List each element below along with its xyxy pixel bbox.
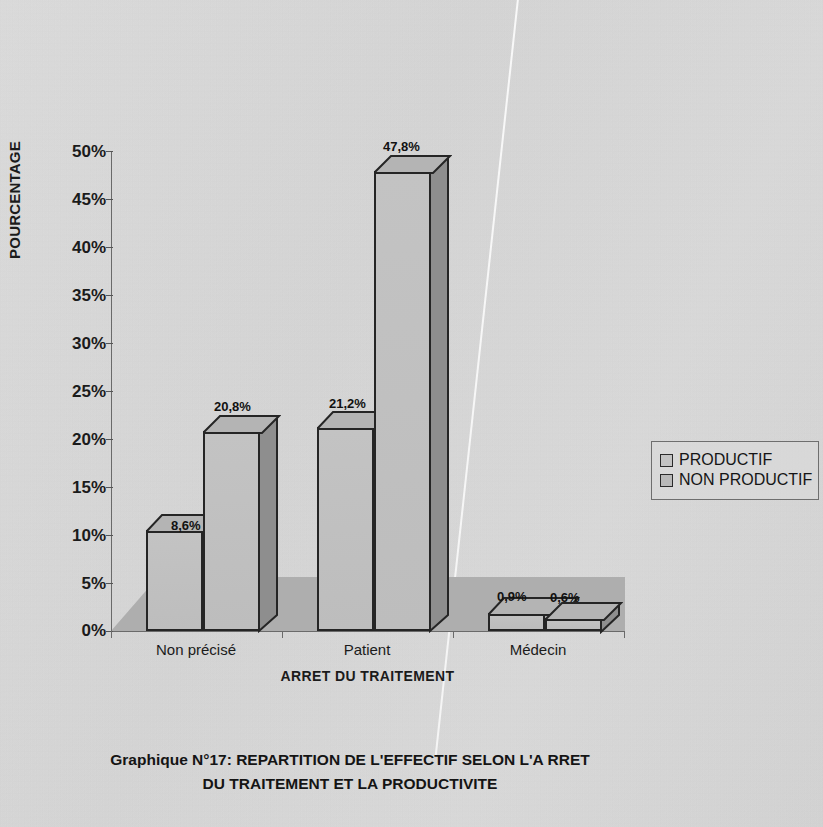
data-label-patient-productif: 21,2%: [329, 396, 366, 411]
x-tick-mark-1: [282, 631, 283, 638]
x-axis-line: [111, 631, 624, 632]
y-tick-label-50: 50%: [48, 142, 106, 162]
data-label-patient-non-productif: 47,8%: [383, 139, 420, 154]
data-label-non-precise-productif: 8,6%: [171, 518, 201, 533]
y-tick-label-45: 45%: [48, 190, 106, 210]
bar-side-patient-non-productif: [429, 155, 451, 633]
y-tick-label-5: 5%: [48, 574, 106, 594]
bar-side-non-precise-non-productif: [258, 415, 280, 633]
x-category-label-medecin: Médecin: [453, 641, 623, 658]
y-tick-mark-25: [106, 391, 113, 392]
chart-caption-line-1: Graphique N°17: REPARTITION DE L'EFFECTI…: [0, 748, 700, 772]
y-tick-mark-30: [106, 343, 113, 344]
data-label-medecin-productif: 0,9%: [497, 589, 527, 604]
legend-label-non-productif: NON PRODUCTIF: [679, 471, 812, 489]
legend-item-non-productif[interactable]: NON PRODUCTIF: [660, 471, 812, 489]
x-tick-mark-2: [453, 631, 454, 638]
bar-non-precise-non-productif: [203, 431, 260, 631]
y-tick-mark-10: [106, 535, 113, 536]
y-tick-mark-45: [106, 199, 113, 200]
bar-top-non-precise-non-productif: [203, 415, 281, 435]
bar-front-face: [374, 171, 431, 631]
x-category-label-non-precise: Non précisé: [111, 641, 281, 658]
y-tick-mark-20: [106, 439, 113, 440]
legend-swatch-icon-productif: [660, 454, 673, 467]
bar-chart: POURCENTAGE 50% 45% 40% 35% 30% 25% 20% …: [0, 0, 823, 827]
legend-label-productif: PRODUCTIF: [679, 451, 772, 469]
y-tick-label-0: 0%: [48, 621, 106, 641]
y-tick-mark-35: [106, 295, 113, 296]
y-tick-label-15: 15%: [48, 478, 106, 498]
chart-legend: PRODUCTIF NON PRODUCTIF: [651, 441, 819, 500]
y-axis-title: POURCENTAGE: [6, 100, 23, 300]
bar-non-precise-productif: [146, 530, 203, 631]
y-tick-label-10: 10%: [48, 526, 106, 546]
y-tick-mark-40: [106, 247, 113, 248]
y-tick-mark-5: [106, 583, 113, 584]
legend-item-productif[interactable]: PRODUCTIF: [660, 451, 812, 469]
y-tick-label-20: 20%: [48, 430, 106, 450]
data-label-medecin-non-productif: 0,6%: [550, 590, 580, 605]
y-tick-label-40: 40%: [48, 238, 106, 258]
y-tick-label-25: 25%: [48, 382, 106, 402]
bar-front-face: [317, 427, 374, 631]
bar-front-face: [203, 431, 260, 631]
x-category-label-patient: Patient: [282, 641, 452, 658]
bar-top-medecin-non-productif: [545, 602, 623, 622]
bar-top-patient-non-productif: [374, 155, 452, 175]
x-tick-mark-3: [624, 631, 625, 638]
x-axis-title: ARRET DU TRAITEMENT: [111, 668, 624, 684]
bar-patient-non-productif: [374, 171, 431, 631]
y-tick-mark-50: [106, 151, 113, 152]
y-tick-mark-15: [106, 487, 113, 488]
bar-patient-productif: [317, 427, 374, 631]
y-tick-label-35: 35%: [48, 286, 106, 306]
x-tick-mark-0: [111, 631, 112, 638]
y-tick-label-30: 30%: [48, 334, 106, 354]
chart-caption: Graphique N°17: REPARTITION DE L'EFFECTI…: [0, 748, 700, 796]
data-label-non-precise-non-productif: 20,8%: [214, 399, 251, 414]
legend-swatch-icon-non-productif: [660, 474, 673, 487]
bar-front-face: [146, 530, 203, 631]
chart-caption-line-2: DU TRAITEMENT ET LA PRODUCTIVITE: [0, 772, 700, 796]
